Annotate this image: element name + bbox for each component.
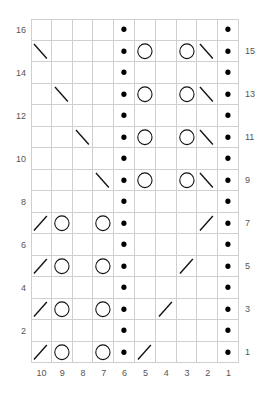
chart-cell [177, 320, 198, 342]
purl-dot-icon [114, 105, 134, 126]
purl-dot-icon [114, 299, 134, 320]
chart-cell [52, 148, 73, 170]
chart-cell [73, 299, 94, 321]
chart-cell [177, 299, 198, 321]
chart-cell [135, 148, 156, 170]
chart-cell [31, 148, 52, 170]
chart-cell [135, 170, 156, 192]
purl-dot-icon [218, 19, 238, 40]
decrease-backslash-icon [52, 84, 72, 105]
column-label: 6 [114, 368, 135, 378]
row-label-left: 16 [6, 25, 26, 35]
purl-dot-icon [218, 191, 238, 212]
chart-cell [156, 299, 177, 321]
chart-cell [93, 234, 114, 256]
row-label-left: 12 [6, 111, 26, 121]
row-label-right: 15 [245, 46, 255, 56]
column-label: 8 [73, 368, 94, 378]
purl-dot-icon [218, 277, 238, 298]
row-label-left: 6 [6, 240, 26, 250]
chart-cell [31, 234, 52, 256]
chart-cell [52, 256, 73, 278]
chart-cell [114, 299, 135, 321]
chart-cell [218, 148, 239, 170]
row-label-left: 8 [6, 197, 26, 207]
chart-cell [52, 19, 73, 41]
decrease-slash-icon [31, 213, 51, 234]
column-label: 9 [52, 368, 73, 378]
purl-dot-icon [114, 19, 134, 40]
chart-cell [114, 342, 135, 364]
yarn-over-circle-icon [93, 213, 113, 234]
chart-cell [31, 105, 52, 127]
chart-cell [156, 191, 177, 213]
row-label-right: 7 [245, 218, 250, 228]
chart-cell [114, 41, 135, 63]
yarn-over-circle-icon [93, 256, 113, 277]
purl-dot-icon [218, 320, 238, 341]
purl-dot-icon [218, 62, 238, 83]
chart-cell [197, 170, 218, 192]
chart-cell [52, 127, 73, 149]
chart-cell [218, 41, 239, 63]
purl-dot-icon [218, 299, 238, 320]
decrease-slash-icon [156, 299, 176, 320]
yarn-over-circle-icon [93, 342, 113, 363]
chart-cell [93, 62, 114, 84]
chart-cell [114, 277, 135, 299]
purl-dot-icon [114, 41, 134, 62]
chart-cell [218, 277, 239, 299]
chart-cell [114, 84, 135, 106]
row-label-right: 1 [245, 347, 250, 357]
yarn-over-circle-icon [52, 256, 72, 277]
chart-cell [114, 320, 135, 342]
purl-dot-icon [218, 342, 238, 363]
decrease-backslash-icon [31, 41, 51, 62]
chart-cell [52, 191, 73, 213]
chart-cell [197, 127, 218, 149]
decrease-slash-icon [31, 299, 51, 320]
chart-cell [73, 213, 94, 235]
chart-cell [156, 213, 177, 235]
chart-cell [73, 84, 94, 106]
decrease-backslash-icon [197, 170, 217, 191]
chart-cell [156, 148, 177, 170]
chart-cell [31, 62, 52, 84]
chart-cell [52, 277, 73, 299]
chart-cell [135, 19, 156, 41]
chart-cell [218, 19, 239, 41]
chart-cell [73, 127, 94, 149]
chart-cell [156, 342, 177, 364]
chart-cell [73, 234, 94, 256]
chart-cell [218, 62, 239, 84]
chart-cell [135, 256, 156, 278]
chart-cell [135, 320, 156, 342]
chart-cell [156, 234, 177, 256]
chart-cell [73, 148, 94, 170]
chart-cell [177, 234, 198, 256]
chart-cell [52, 170, 73, 192]
chart-cell [177, 62, 198, 84]
chart-cell [52, 320, 73, 342]
purl-dot-icon [114, 191, 134, 212]
chart-cell [135, 234, 156, 256]
yarn-over-circle-icon [135, 170, 155, 191]
chart-cell [197, 256, 218, 278]
purl-dot-icon [114, 62, 134, 83]
yarn-over-circle-icon [52, 213, 72, 234]
yarn-over-circle-icon [135, 41, 155, 62]
chart-cell [52, 62, 73, 84]
chart-cell [93, 84, 114, 106]
yarn-over-circle-icon [177, 41, 197, 62]
chart-cell [177, 277, 198, 299]
decrease-backslash-icon [197, 41, 217, 62]
chart-cell [197, 299, 218, 321]
purl-dot-icon [218, 170, 238, 191]
column-label: 1 [218, 368, 239, 378]
chart-cell [156, 105, 177, 127]
decrease-slash-icon [177, 256, 197, 277]
chart-cell [114, 234, 135, 256]
chart-cell [135, 277, 156, 299]
chart-cell [218, 84, 239, 106]
chart-cell [218, 234, 239, 256]
